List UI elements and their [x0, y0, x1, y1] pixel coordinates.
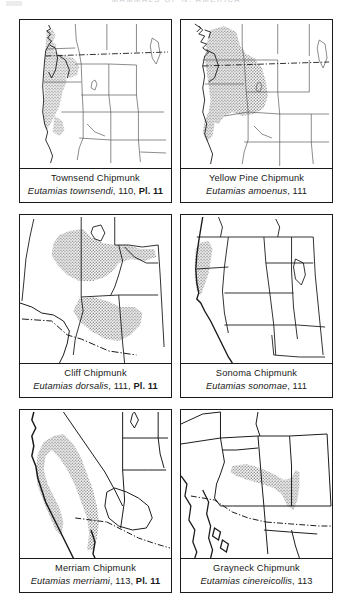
running-head: MAMMALS OF N. AMERICA	[0, 0, 353, 13]
page-ref: 111	[293, 381, 307, 391]
scientific-name: Eutamias merriami	[31, 576, 110, 586]
common-name: Grayneck Chipmunk	[213, 563, 300, 575]
caption-yellow-pine-chipmunk: Yellow Pine Chipmunk Eutamias amoenus, 1…	[181, 169, 332, 202]
common-name: Townsend Chipmunk	[51, 173, 140, 185]
page-ref: 111	[293, 186, 307, 196]
range-map-townsend-chipmunk	[20, 20, 171, 168]
range-map-merriam-chipmunk	[20, 410, 171, 558]
range-map-cliff-chipmunk	[20, 215, 171, 363]
range-map-sonoma-chipmunk	[181, 215, 332, 363]
scientific-line: Eutamias dorsalis, 111, Pl. 11	[33, 381, 158, 393]
scientific-line: Eutamias amoenus, 111	[206, 186, 307, 198]
figure-merriam-chipmunk: Merriam Chipmunk Eutamias merriami, 113,…	[19, 409, 172, 593]
figure-row: Merriam Chipmunk Eutamias merriami, 113,…	[19, 409, 337, 593]
scientific-line: Eutamias merriami, 113, Pl. 11	[31, 576, 160, 588]
range-map-grayneck-chipmunk	[181, 410, 332, 558]
figure-townsend-chipmunk: Townsend Chipmunk Eutamias townsendi, 11…	[19, 19, 172, 203]
running-head-text: MAMMALS OF N. AMERICA	[0, 0, 353, 4]
scientific-line: Eutamias cinereicollis, 113	[200, 576, 312, 588]
figure-row: Cliff Chipmunk Eutamias dorsalis, 111, P…	[19, 214, 337, 398]
common-name: Cliff Chipmunk	[64, 368, 126, 380]
scientific-name: Eutamias amoenus	[206, 186, 287, 196]
common-name: Merriam Chipmunk	[55, 563, 136, 575]
figure-cliff-chipmunk: Cliff Chipmunk Eutamias dorsalis, 111, P…	[19, 214, 172, 398]
range-map-yellow-pine-chipmunk	[181, 20, 332, 168]
scientific-name: Eutamias dorsalis	[33, 381, 108, 391]
page-ref: 111	[114, 381, 128, 391]
common-name: Sonoma Chipmunk	[216, 368, 297, 380]
figure-sonoma-chipmunk: Sonoma Chipmunk Eutamias sonomae, 111	[180, 214, 333, 398]
caption-grayneck-chipmunk: Grayneck Chipmunk Eutamias cinereicollis…	[181, 559, 332, 592]
caption-cliff-chipmunk: Cliff Chipmunk Eutamias dorsalis, 111, P…	[20, 364, 171, 397]
page-ref: 110	[118, 186, 133, 196]
plate-ref: Pl. 11	[133, 381, 157, 391]
plate-ref: Pl. 11	[136, 576, 160, 586]
figure-yellow-pine-chipmunk: Yellow Pine Chipmunk Eutamias amoenus, 1…	[180, 19, 333, 203]
caption-sonoma-chipmunk: Sonoma Chipmunk Eutamias sonomae, 111	[181, 364, 332, 397]
page-ref: 113	[115, 576, 130, 586]
scientific-name: Eutamias cinereicollis	[200, 576, 292, 586]
range-map-figure-grid: Townsend Chipmunk Eutamias townsendi, 11…	[19, 19, 337, 593]
scientific-line: Eutamias townsendi, 110, Pl. 11	[28, 186, 163, 198]
scientific-name: Eutamias sonomae	[206, 381, 287, 391]
scientific-line: Eutamias sonomae, 111	[206, 381, 307, 393]
caption-merriam-chipmunk: Merriam Chipmunk Eutamias merriami, 113,…	[20, 559, 171, 592]
plate-ref: Pl. 11	[139, 186, 163, 196]
page-ref: 113	[297, 576, 312, 586]
scientific-name: Eutamias townsendi	[28, 186, 113, 196]
common-name: Yellow Pine Chipmunk	[209, 173, 304, 185]
caption-townsend-chipmunk: Townsend Chipmunk Eutamias townsendi, 11…	[20, 169, 171, 202]
figure-row: Townsend Chipmunk Eutamias townsendi, 11…	[19, 19, 337, 203]
figure-grayneck-chipmunk: Grayneck Chipmunk Eutamias cinereicollis…	[180, 409, 333, 593]
